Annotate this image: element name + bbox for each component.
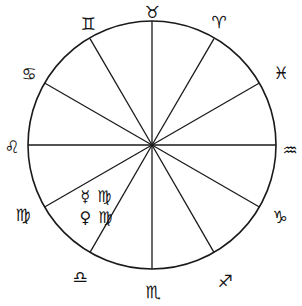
planet-glyph-venus: ♀ — [79, 210, 91, 226]
annotation-mercury-in-virgo: ☿♍ — [80, 189, 111, 205]
spoke-cusp-gemini-cancer — [90, 39, 152, 145]
spoke-cusp-cancer-leo — [45, 83, 152, 145]
sign-label-leo: ♌ — [4, 139, 19, 156]
sign-label-scorpio: ♏ — [145, 284, 160, 301]
zodiac-wheel-diagram: ♉♊♋♌♍♎♏♐♑♒♓♈ ☿♍♀♍ — [0, 0, 302, 306]
spoke-cusp-aries-taurus — [152, 39, 214, 145]
spoke-cusp-pisces-aries — [152, 83, 259, 145]
sign-label-taurus: ♉ — [144, 4, 159, 21]
sign-label-virgo: ♍ — [15, 207, 30, 224]
sign-label-pisces: ♓ — [273, 65, 288, 82]
sign-glyph-virgo: ♍ — [98, 210, 112, 226]
sign-label-capricorn: ♑ — [272, 209, 287, 226]
spoke-cusp-sagittarius-capricorn — [152, 145, 214, 252]
planet-glyph-mercury: ☿ — [80, 189, 90, 205]
wheel-canvas — [0, 0, 302, 306]
sign-label-gemini: ♊ — [80, 16, 95, 33]
spoke-cusp-capricorn-aquarius — [152, 145, 259, 207]
sign-label-sagittarius: ♐ — [217, 273, 232, 290]
sign-glyph-virgo: ♍ — [97, 189, 111, 205]
sign-label-cancer: ♋ — [21, 66, 36, 83]
sign-label-libra: ♎ — [72, 269, 87, 286]
sign-label-aries: ♈ — [211, 14, 226, 31]
wheel-spokes-group — [28, 21, 276, 269]
annotation-venus-in-virgo: ♀♍ — [79, 210, 112, 226]
sign-label-aquarius: ♒ — [282, 142, 297, 159]
